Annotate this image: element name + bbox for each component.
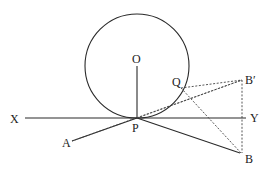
label-x: X [10,112,19,126]
segment-pb [137,118,240,153]
label-o: O [132,52,141,66]
segment-pbprime-dotted [137,80,242,118]
geometry-diagram: O P Q X Y A B B′ [0,0,271,176]
label-b: B [245,152,253,166]
label-bprime: B′ [245,73,256,87]
label-q: Q [172,75,181,89]
label-p: P [132,121,139,135]
label-y: Y [250,111,259,125]
segment-qbprime-dotted [181,80,242,88]
label-a: A [62,136,71,150]
